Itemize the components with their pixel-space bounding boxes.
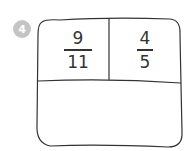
numerator: 4	[140, 29, 151, 47]
fraction-right: 4 5	[135, 29, 155, 71]
fraction-left: 9 11	[63, 29, 93, 71]
numerator: 9	[73, 29, 84, 47]
horizontal-divider	[38, 80, 181, 83]
fraction-bar	[137, 49, 153, 51]
denominator: 5	[140, 53, 151, 71]
denominator: 11	[67, 53, 89, 71]
fraction-bar	[64, 49, 92, 51]
answer-area[interactable]	[40, 84, 178, 142]
